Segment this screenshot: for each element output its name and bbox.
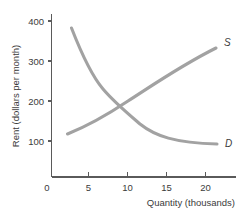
- chart-canvas: 400 300 200 100 0 5 10 15 20 Rent (dolla…: [0, 0, 240, 219]
- x-axis-ticks: [89, 172, 206, 177]
- supply-curve-label: S: [224, 37, 231, 48]
- y-tick-label-100: 100: [28, 136, 44, 147]
- supply-curve: [68, 48, 217, 134]
- x-tick-label-10: 10: [122, 182, 133, 193]
- x-tick-label-20: 20: [200, 182, 211, 193]
- x-tick-label-5: 5: [86, 182, 91, 193]
- demand-curve-label: D: [225, 138, 232, 149]
- x-tick-label-0: 0: [44, 182, 49, 193]
- y-tick-label-200: 200: [28, 96, 44, 107]
- y-axis-title: Rent (dollars per month): [10, 45, 21, 147]
- y-tick-label-400: 400: [28, 16, 44, 27]
- demand-curve: [72, 28, 218, 144]
- rent-quantity-chart: 400 300 200 100 0 5 10 15 20 Rent (dolla…: [0, 0, 240, 219]
- x-axis-title: Quantity (thousands): [147, 197, 235, 208]
- y-axis-ticks: [48, 21, 52, 141]
- x-tick-label-15: 15: [161, 182, 172, 193]
- y-tick-label-300: 300: [28, 56, 44, 67]
